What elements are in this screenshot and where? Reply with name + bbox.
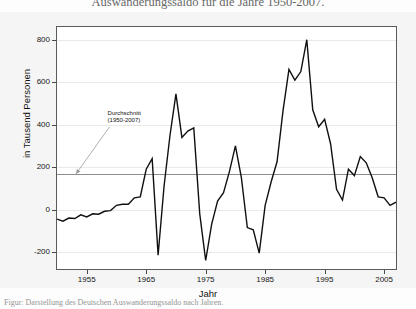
y-tick-label: 200 [16, 162, 50, 171]
annotation-arrowhead [76, 169, 80, 174]
figure-title: Auswanderungssaldo für die Jahre 1950-20… [0, 0, 416, 11]
annotation-leader-line [76, 127, 110, 174]
x-tick-mark [146, 270, 147, 274]
figure-caption: Figur: Darstellung des Deutschen Auswand… [4, 298, 414, 309]
y-tick-label: 400 [16, 120, 50, 129]
x-tick-label: 1975 [186, 275, 226, 284]
plot-inner: Durchschnitt (1950-2007) [57, 27, 396, 269]
chart-figure: in Tausend Personen -2000200400600800 19… [0, 12, 416, 288]
y-tick-label: 600 [16, 77, 50, 86]
x-tick-mark [265, 270, 266, 274]
x-tick-mark [325, 270, 326, 274]
y-tick-label: 800 [16, 35, 50, 44]
x-tick-mark [87, 270, 88, 274]
x-tick-label: 1985 [245, 275, 285, 284]
x-tick-label: 1965 [126, 275, 166, 284]
x-tick-label: 1955 [67, 275, 107, 284]
x-tick-mark [206, 270, 207, 274]
annotation-arrow [57, 27, 396, 269]
y-tick-label: 0 [16, 205, 50, 214]
x-tick-label: 2005 [364, 275, 404, 284]
x-tick-label: 1995 [305, 275, 345, 284]
plot-area: Durchschnitt (1950-2007) [56, 26, 397, 270]
y-tick-label: -200 [16, 247, 50, 256]
x-tick-mark [384, 270, 385, 274]
